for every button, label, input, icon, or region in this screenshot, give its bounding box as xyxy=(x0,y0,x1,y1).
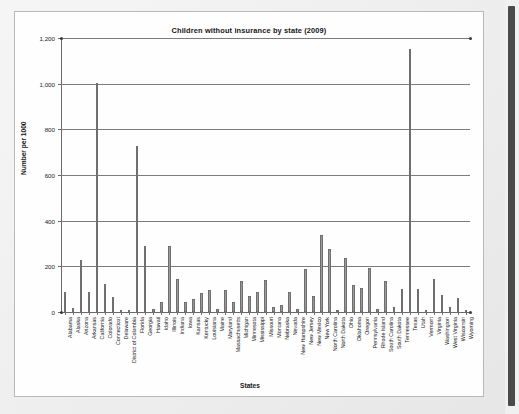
x-axis-tick xyxy=(169,312,170,315)
x-axis-tick-label: Minnesota xyxy=(251,317,257,341)
x-axis-tick xyxy=(129,312,130,315)
x-axis-tick-label: Montana xyxy=(276,317,282,338)
bar xyxy=(80,260,83,312)
x-axis-tick xyxy=(193,312,194,315)
bar xyxy=(280,305,283,312)
x-axis-tick xyxy=(89,312,90,315)
x-axis-tick-label: Florida xyxy=(139,317,145,333)
x-axis-tick xyxy=(362,312,363,315)
x-axis-tick-label: Maryland xyxy=(227,317,233,339)
axis-endpoint-marker xyxy=(469,311,472,314)
x-axis-tick-label: West Virginia xyxy=(452,317,458,348)
x-axis-tick-label: California xyxy=(99,317,105,339)
x-axis-tick-label: District of Columbia xyxy=(131,317,137,363)
x-axis-tick xyxy=(410,312,411,315)
x-axis-tick-label: Washington xyxy=(444,317,450,345)
x-axis-tick-label: New Mexico xyxy=(316,317,322,346)
x-axis-tick-label: Missouri xyxy=(268,317,274,337)
x-axis-tick-label: Illinois xyxy=(171,317,177,332)
bar xyxy=(360,288,363,312)
x-axis-tick-label: Connecticut xyxy=(115,317,121,345)
y-axis-tick-label: 800 xyxy=(45,126,55,133)
y-axis-tick-label: 200 xyxy=(45,263,55,270)
x-axis-tick xyxy=(370,312,371,315)
x-axis-tick xyxy=(257,312,258,315)
bars-layer xyxy=(61,38,470,312)
scrollbar-thumb[interactable] xyxy=(508,6,515,406)
x-axis-tick-label: Pennsylvania xyxy=(372,317,378,349)
x-axis-tick-label: Alaska xyxy=(75,317,81,333)
x-axis-tick-label: Maine xyxy=(219,317,225,331)
x-axis-tick-label: Alabama xyxy=(67,317,73,338)
x-axis-tick xyxy=(233,312,234,315)
bar xyxy=(160,302,163,312)
x-axis-tick xyxy=(249,312,250,315)
y-axis-tick-label: 1,200 xyxy=(40,35,55,42)
x-axis-tick xyxy=(386,312,387,315)
y-axis-tick-label: 400 xyxy=(45,217,55,224)
x-axis-tick-label: North Carolina xyxy=(332,317,338,351)
x-axis-tick xyxy=(322,312,323,315)
x-axis-tick xyxy=(442,312,443,315)
x-axis-tick xyxy=(306,312,307,315)
bar xyxy=(240,281,243,312)
bar xyxy=(232,302,235,313)
bar xyxy=(136,146,139,312)
x-axis-tick xyxy=(434,312,435,315)
x-axis-tick xyxy=(185,312,186,315)
bar xyxy=(264,280,267,312)
x-axis-tick xyxy=(73,312,74,315)
x-axis-tick xyxy=(402,312,403,315)
bar xyxy=(304,269,307,312)
chart-card: Children without insurance by state (200… xyxy=(14,11,484,397)
x-axis-tick xyxy=(354,312,355,315)
bar xyxy=(433,279,436,312)
x-axis-tick-label: Wyoming xyxy=(468,317,474,339)
y-axis-tick-label: 0 xyxy=(52,309,55,316)
x-axis-tick-label: Delaware xyxy=(123,317,129,339)
x-axis-tick xyxy=(177,312,178,315)
y-axis-tick-label: 600 xyxy=(45,172,55,179)
bar xyxy=(457,298,460,312)
x-axis-tick-label: Nevada xyxy=(292,317,298,335)
x-axis-tick xyxy=(225,312,226,315)
x-axis-tick-label: Utah xyxy=(420,317,426,328)
x-axis-tick-label: Oklahoma xyxy=(356,317,362,341)
x-axis-tick-label: Vermont xyxy=(428,317,434,337)
x-axis-tick-label: Hawaii xyxy=(155,317,161,333)
x-axis-tick xyxy=(153,312,154,315)
bar xyxy=(312,296,315,312)
x-axis-tick-label: Wisconsin xyxy=(460,317,466,341)
bar xyxy=(441,295,444,312)
x-axis-tick-label: Indiana xyxy=(179,317,185,334)
x-axis-tick-label: New York xyxy=(324,317,330,339)
x-axis-tick-label: Texas xyxy=(412,317,418,331)
x-axis-tick xyxy=(346,312,347,315)
x-axis-tick xyxy=(266,312,267,315)
bar xyxy=(288,292,291,312)
x-axis-tick xyxy=(217,312,218,315)
bar xyxy=(144,246,147,312)
x-axis-tick-label: Oregon xyxy=(364,317,370,335)
bar xyxy=(409,49,412,312)
bar xyxy=(112,297,115,312)
x-axis-tick xyxy=(145,312,146,315)
x-axis-tick xyxy=(97,312,98,315)
x-axis-tick-label: Arkansas xyxy=(91,317,97,339)
bar xyxy=(184,302,187,312)
bar xyxy=(208,290,211,312)
vertical-scrollbar[interactable] xyxy=(505,0,519,414)
x-axis-tick-label: Colorado xyxy=(107,317,113,339)
x-axis-tick-label: Massachusetts xyxy=(235,317,241,352)
plot-area: Number per 1000 States 02004006008001,00… xyxy=(15,12,485,398)
x-axis-tick-label: New Jersey xyxy=(308,317,314,345)
x-axis-tick xyxy=(274,312,275,315)
x-axis-tick xyxy=(338,312,339,315)
x-axis-tick-label: Ohio xyxy=(348,317,354,328)
bar xyxy=(224,290,227,312)
x-axis-tick xyxy=(81,312,82,315)
x-axis-tick xyxy=(137,312,138,315)
x-axis-tick-label: South Carolina xyxy=(388,317,394,352)
x-axis-tick xyxy=(209,312,210,315)
x-axis-tick-label: Arizona xyxy=(83,317,89,335)
